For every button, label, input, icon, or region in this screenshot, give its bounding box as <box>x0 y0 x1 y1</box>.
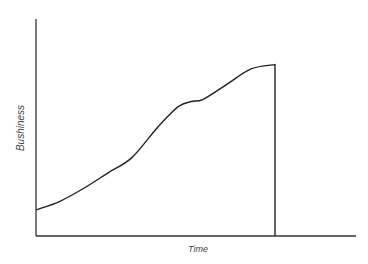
y-axis-label: Bushiness <box>15 105 26 151</box>
bushiness-curve <box>36 65 275 236</box>
chart-plot-area <box>0 0 368 264</box>
x-axis-label: Time <box>0 244 368 254</box>
